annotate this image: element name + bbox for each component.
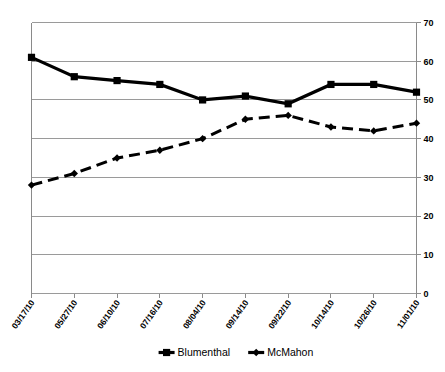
y-tick-label: 50: [424, 95, 434, 105]
chart-legend: BlumenthalMcMahon: [159, 346, 314, 358]
y-tick-label: 0: [424, 289, 429, 299]
line-chart: 010203040506070 03/17/1005/27/1006/10/10…: [0, 0, 445, 372]
diamond-marker-icon: [28, 181, 35, 188]
square-marker-icon: [113, 77, 120, 84]
y-tick-label: 60: [424, 57, 434, 67]
x-tick-label: 07/16/10: [138, 298, 165, 331]
legend-label: McMahon: [267, 346, 313, 358]
y-tick-label: 20: [424, 211, 434, 221]
x-tick-label: 09/14/10: [223, 298, 250, 331]
diamond-marker-icon: [327, 123, 334, 130]
square-marker-icon: [163, 349, 170, 356]
y-tick-label: 30: [424, 173, 434, 183]
x-axis-tick-labels: 03/17/1005/27/1006/10/1007/16/1008/04/10…: [9, 298, 421, 331]
diamond-marker-icon: [156, 147, 163, 154]
chart-container: 010203040506070 03/17/1005/27/1006/10/10…: [0, 0, 445, 372]
x-tick-label: 06/10/10: [95, 298, 122, 331]
x-tick-label: 09/22/10: [266, 298, 293, 331]
x-tick-label: 11/01/10: [395, 298, 422, 331]
square-marker-icon: [370, 81, 377, 88]
x-tick-label: 03/17/10: [9, 298, 36, 331]
data-series: [28, 54, 420, 189]
y-axis-tick-labels: 010203040506070: [424, 18, 434, 299]
diamond-marker-icon: [199, 135, 206, 142]
diamond-marker-icon: [284, 112, 291, 119]
series-blumenthal: [28, 54, 420, 108]
square-marker-icon: [156, 81, 163, 88]
x-tick-label: 08/04/10: [181, 298, 208, 331]
y-tick-label: 70: [424, 18, 434, 28]
square-marker-icon: [413, 89, 420, 96]
diamond-marker-icon: [370, 127, 377, 134]
y-tick-label: 10: [424, 250, 434, 260]
series-line: [32, 115, 417, 185]
diamond-marker-icon: [413, 119, 420, 126]
square-marker-icon: [28, 54, 35, 61]
square-marker-icon: [199, 96, 206, 103]
square-marker-icon: [71, 73, 78, 80]
x-tick-label: 10/26/10: [352, 298, 379, 331]
y-tick-label: 40: [424, 134, 434, 144]
square-marker-icon: [285, 100, 292, 107]
diamond-marker-icon: [71, 170, 78, 177]
x-tick-label: 05/27/10: [52, 298, 79, 331]
legend-label: Blumenthal: [178, 346, 231, 358]
diamond-marker-icon: [113, 154, 120, 161]
chart-axes: [32, 23, 421, 298]
legend-item: McMahon: [248, 346, 313, 358]
legend-item: Blumenthal: [159, 346, 231, 358]
diamond-marker-icon: [252, 349, 259, 356]
square-marker-icon: [242, 92, 249, 99]
gridlines: [32, 23, 417, 294]
series-line: [32, 57, 417, 103]
square-marker-icon: [327, 81, 334, 88]
x-tick-label: 10/14/10: [309, 298, 336, 331]
